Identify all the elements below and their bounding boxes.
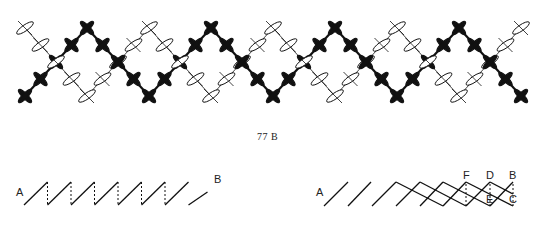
white-cross-stitch: [310, 71, 330, 87]
left-stitch-diagram: A B: [0, 160, 260, 234]
right-stitch-diagram: A F D B E C: [300, 160, 535, 234]
label-e: E: [486, 193, 493, 205]
white-cross-stitch: [93, 71, 113, 87]
black-cross-stitch: [32, 71, 48, 87]
black-cross-stitch: [249, 71, 265, 87]
black-cross-stitch: [156, 71, 172, 87]
white-cross-stitch: [155, 37, 175, 53]
white-cross-stitch: [201, 88, 221, 104]
white-cross-stitch: [15, 20, 35, 36]
white-cross-stitch: [248, 37, 268, 53]
white-cross-stitch: [186, 71, 206, 87]
white-cross-stitch: [341, 71, 361, 87]
label-a: A: [316, 186, 324, 198]
white-cross-stitch: [387, 20, 407, 36]
white-cross-stitch: [511, 20, 531, 36]
black-cross-stitch: [373, 71, 389, 87]
black-cross-stitch: [389, 88, 405, 104]
white-cross-stitch: [217, 71, 237, 87]
black-cross-stitch: [435, 37, 451, 53]
black-cross-stitch: [63, 37, 79, 53]
white-cross-stitch: [434, 71, 454, 87]
black-cross-stitch: [218, 37, 234, 53]
black-cross-stitch: [358, 54, 374, 70]
black-cross-stitch: [497, 71, 513, 87]
white-cross-stitch: [372, 37, 392, 53]
label-b: B: [509, 169, 516, 181]
white-cross-stitch: [496, 37, 516, 53]
white-cross-stitch: [465, 71, 485, 87]
label-c: C: [509, 193, 517, 205]
black-cross-stitch: [482, 54, 498, 70]
white-cross-stitch: [325, 88, 345, 104]
black-cross-stitch: [110, 54, 126, 70]
white-cross-stitch: [124, 37, 144, 53]
black-cross-stitch: [280, 71, 296, 87]
black-cross-stitch: [327, 20, 343, 36]
black-cross-stitch: [94, 37, 110, 53]
black-cross-stitch: [466, 37, 482, 53]
white-cross-stitch: [77, 88, 97, 104]
figure-caption: 77 B: [0, 131, 535, 142]
black-cross-stitch: [234, 54, 250, 70]
white-cross-stitch: [62, 71, 82, 87]
white-cross-stitch: [263, 20, 283, 36]
label-b: B: [214, 173, 221, 185]
black-cross-stitch: [265, 88, 281, 104]
black-cross-stitch: [141, 88, 157, 104]
black-cross-stitch: [513, 88, 529, 104]
black-cross-stitch: [311, 37, 327, 53]
black-cross-stitch: [17, 88, 33, 104]
black-cross-stitch: [342, 37, 358, 53]
black-cross-stitch: [203, 20, 219, 36]
white-cross-stitch: [139, 20, 159, 36]
black-cross-stitch: [79, 20, 95, 36]
label-a: A: [16, 186, 24, 198]
black-cross-stitch: [187, 37, 203, 53]
black-cross-stitch: [404, 71, 420, 87]
cross-stitch-pattern: [0, 0, 535, 120]
black-cross-stitch: [451, 20, 467, 36]
black-cross-stitch: [125, 71, 141, 87]
label-d: D: [486, 169, 494, 181]
white-cross-stitch: [279, 37, 299, 53]
white-cross-stitch: [403, 37, 423, 53]
white-cross-stitch: [449, 88, 469, 104]
label-f: F: [463, 169, 470, 181]
white-cross-stitch: [31, 37, 51, 53]
